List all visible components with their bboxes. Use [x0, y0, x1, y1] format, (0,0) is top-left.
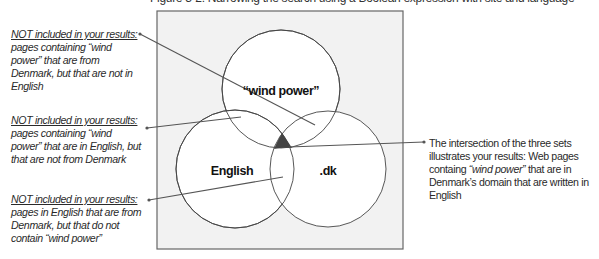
set-label-english: English — [211, 164, 253, 178]
annotation-heading: NOT included in your results: — [11, 28, 139, 41]
results-emphasis: “wind power” — [469, 163, 525, 175]
set-label-dk: .dk — [320, 164, 337, 178]
annotation-body: pages containing “wind power” that are i… — [11, 127, 141, 165]
set-label-wind-power: “wind power” — [243, 84, 319, 98]
annotation-english-dk-not-wind: NOT included in your results: pages in E… — [11, 193, 151, 245]
annotation-wind-dk-not-english: NOT included in your results: pages cont… — [11, 28, 139, 93]
annotation-body: pages containing “wind power” that are f… — [11, 41, 133, 92]
annotation-heading: NOT included in your results: — [11, 114, 143, 127]
annotation-wind-english-not-dk: NOT included in your results: pages cont… — [11, 114, 143, 166]
annotation-heading: NOT included in your results: — [11, 193, 151, 206]
annotation-body: pages in English that are from Denmark, … — [11, 206, 141, 244]
annotation-intersection-results: The intersection of the three sets illus… — [429, 137, 599, 202]
